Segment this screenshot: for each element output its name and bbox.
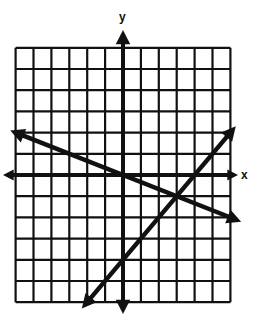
y-axis-label: y — [119, 10, 126, 24]
y-axis-arrow-down-icon — [116, 300, 131, 314]
x-axis-arrow-right-icon — [227, 170, 238, 181]
y-axis-arrow-up-icon — [116, 30, 131, 44]
x-axis-arrow-left-icon — [3, 170, 14, 181]
x-axis-label: x — [241, 168, 248, 182]
coordinate-plane: y x — [0, 0, 254, 316]
graph-canvas — [0, 0, 254, 316]
